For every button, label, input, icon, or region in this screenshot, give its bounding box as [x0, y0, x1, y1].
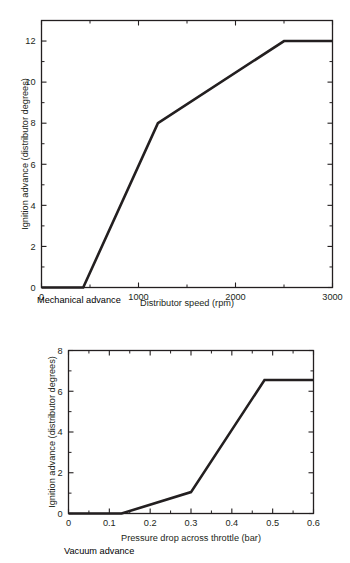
x-tick-label: 0.4 [225, 518, 238, 528]
x-tick-label: 0 [66, 518, 71, 528]
mechanical-advance-chart: 024681012 0100020003000 Distributor spee… [0, 0, 350, 318]
y-axis-ticks [69, 351, 314, 514]
plot-frame [69, 351, 314, 514]
x-tick-label: 0.1 [103, 518, 116, 528]
y-tick-label: 4 [30, 201, 35, 211]
x-tick-label: 0.2 [144, 518, 157, 528]
y-tick-label: 4 [57, 427, 62, 437]
y-tick-label: 8 [57, 346, 62, 356]
y-tick-label: 2 [57, 468, 62, 478]
y-axis-title: Ignition advance (distributor degrees) [20, 78, 30, 230]
x-axis-ticks [42, 21, 333, 288]
y-axis-title: Ignition advance (distributor degrees) [47, 356, 57, 508]
plot-frame [42, 21, 333, 288]
x-tick-label: 0.6 [307, 518, 320, 528]
x-axis-tick-labels: 00.10.20.30.40.50.6 [66, 518, 320, 528]
y-tick-label: 0 [30, 283, 35, 293]
x-tick-label: 0.3 [185, 518, 198, 528]
y-axis-ticks [42, 41, 333, 287]
y-tick-label: 0 [57, 509, 62, 519]
y-tick-label: 6 [57, 387, 62, 397]
x-axis-ticks [69, 351, 314, 514]
figure-caption-mechanical: Mechanical advance [37, 295, 121, 305]
data-series-line [69, 380, 314, 513]
x-tick-label: 0.5 [266, 518, 279, 528]
y-tick-label: 6 [30, 160, 35, 170]
data-series-line [42, 41, 333, 287]
figure-vacuum-advance: 02468 00.10.20.30.40.50.6 Pressure drop … [0, 318, 350, 563]
y-axis-tick-labels: 02468 [57, 346, 62, 519]
figure-caption-vacuum: Vacuum advance [64, 546, 134, 556]
vacuum-advance-chart: 02468 00.10.20.30.40.50.6 Pressure drop … [0, 318, 350, 563]
figure-mechanical-advance: 024681012 0100020003000 Distributor spee… [0, 0, 350, 318]
y-tick-label: 12 [25, 36, 35, 46]
y-tick-label: 8 [30, 118, 35, 128]
y-tick-label: 2 [30, 242, 35, 252]
caption-wrapper-mechanical: Mechanical advance [37, 289, 337, 307]
caption-wrapper-vacuum: Vacuum advance [64, 540, 350, 558]
